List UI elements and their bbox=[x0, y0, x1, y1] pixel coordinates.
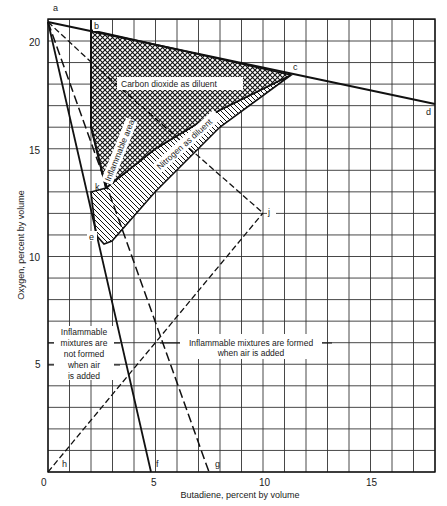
point-c-label: c bbox=[293, 62, 298, 72]
formed-note: Inflammable mixtures are formed when air… bbox=[160, 334, 332, 359]
point-d-label: d bbox=[426, 107, 431, 117]
co2-diluent-label: Carbon dioxide as diluent bbox=[121, 79, 218, 89]
not-formed-line-1: Inflammable bbox=[61, 327, 108, 337]
not-formed-line-5: is added bbox=[68, 371, 100, 381]
x-tick-10: 10 bbox=[259, 477, 271, 488]
point-k-label: k bbox=[95, 182, 100, 192]
point-j-label: j bbox=[267, 207, 270, 217]
x-axis-title: Butadiene, percent by volume bbox=[180, 490, 299, 500]
x-tick-15: 15 bbox=[366, 477, 378, 488]
x-tick-5: 5 bbox=[151, 477, 157, 488]
flammability-chart: Carbon dioxide as diluent Nitrogen as di… bbox=[0, 0, 447, 506]
point-e-label: e bbox=[89, 232, 94, 242]
point-b-label: b bbox=[94, 21, 99, 31]
formed-line-2: when air is added bbox=[217, 348, 285, 358]
x-tick-0: 0 bbox=[41, 477, 47, 488]
formed-line-1: Inflammable mixtures are formed bbox=[189, 338, 314, 348]
y-tick-20: 20 bbox=[29, 37, 41, 48]
not-formed-line-4: when air bbox=[67, 360, 100, 370]
co2-diluent-region bbox=[91, 30, 291, 188]
point-f-label: f bbox=[156, 459, 159, 469]
point-g-label: g bbox=[215, 459, 220, 469]
y-tick-15: 15 bbox=[29, 145, 41, 156]
point-a-label: a bbox=[53, 3, 58, 13]
y-axis-title: Oxygen, percent by volume bbox=[16, 190, 26, 300]
not-formed-line-3: not formed bbox=[64, 349, 105, 359]
not-formed-line-2: mixtures are bbox=[61, 338, 108, 348]
point-h-label: h bbox=[62, 459, 67, 469]
y-tick-10: 10 bbox=[29, 252, 41, 263]
y-tick-5: 5 bbox=[35, 359, 41, 370]
not-formed-note: Inflammable mixtures are not formed when… bbox=[48, 326, 120, 381]
